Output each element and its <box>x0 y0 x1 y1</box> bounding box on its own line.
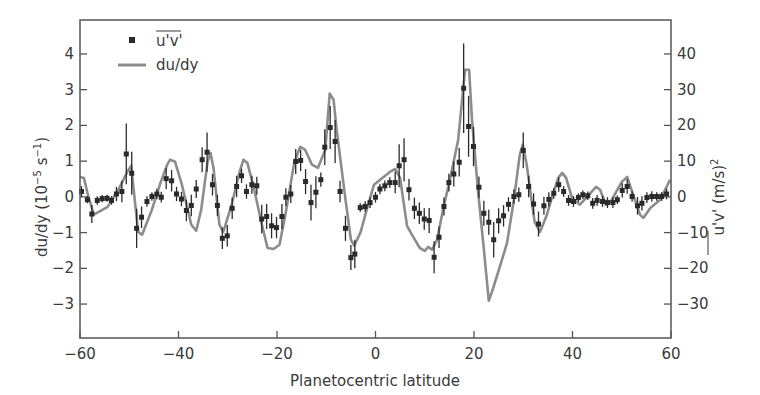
data-point <box>244 189 249 194</box>
data-point <box>210 182 215 187</box>
data-point <box>561 189 566 194</box>
x-tick-label: 20 <box>464 345 483 363</box>
data-point <box>393 180 398 185</box>
data-point <box>254 183 259 188</box>
du-dy-line <box>80 70 670 301</box>
data-point <box>124 151 129 156</box>
data-point <box>402 157 407 162</box>
data-point <box>129 171 134 176</box>
data-point <box>590 201 595 206</box>
data-point <box>546 197 551 202</box>
data-point <box>600 199 605 204</box>
legend: u'v' du/dy <box>118 31 199 74</box>
data-point <box>352 252 357 257</box>
data-point <box>149 194 154 199</box>
data-point <box>169 178 174 183</box>
data-point <box>144 199 149 204</box>
data-point <box>114 192 119 197</box>
data-point <box>293 159 298 164</box>
data-point <box>234 184 239 189</box>
data-point <box>659 194 664 199</box>
data-point <box>373 195 378 200</box>
data-point <box>215 203 220 208</box>
data-point <box>338 189 343 194</box>
data-point <box>303 179 308 184</box>
y-tick-label-right: 0 <box>677 188 687 206</box>
y-tick-label-left: −2 <box>52 259 74 277</box>
plot-area <box>79 44 670 301</box>
data-point <box>259 217 264 222</box>
data-point <box>239 173 244 178</box>
y-tick-label-right: −20 <box>677 259 709 277</box>
x-axis-title: Planetocentric latitude <box>290 372 460 390</box>
data-point <box>476 185 481 190</box>
data-point <box>154 192 159 197</box>
y-tick-label-right: 40 <box>677 45 696 63</box>
data-point <box>576 195 581 200</box>
y-tick-label-left: 1 <box>64 152 74 170</box>
data-point <box>328 125 333 130</box>
data-point <box>615 197 620 202</box>
data-point <box>441 204 446 209</box>
legend-label-uv: u'v' <box>156 32 183 50</box>
data-point <box>109 198 114 203</box>
x-tick-label: −60 <box>64 345 96 363</box>
data-point <box>556 182 561 187</box>
data-point <box>298 158 303 163</box>
data-point <box>654 194 659 199</box>
data-point <box>406 187 411 192</box>
y-tick-label-left: 4 <box>64 45 74 63</box>
y-axis-title-right-main: u'v' (m/s) <box>710 165 728 236</box>
data-point <box>551 191 556 196</box>
data-point <box>220 236 225 241</box>
legend-marker-square <box>129 37 135 43</box>
x-tick-label: 60 <box>661 345 680 363</box>
data-point <box>119 189 124 194</box>
data-point <box>269 223 274 228</box>
y-tick-label-right: −10 <box>677 224 709 242</box>
data-point <box>580 192 585 197</box>
data-point <box>174 192 179 197</box>
data-point <box>471 144 476 149</box>
y-tick-label-left: −3 <box>52 295 74 313</box>
data-point <box>85 197 90 202</box>
data-point <box>516 192 521 197</box>
data-point <box>377 187 382 192</box>
data-point <box>274 225 279 230</box>
data-point <box>189 203 194 208</box>
svg-text:du/dy (10−5 s−1): du/dy (10−5 s−1) <box>32 137 51 257</box>
x-tick-label: −40 <box>163 345 195 363</box>
legend-label-dudy: du/dy <box>156 56 199 74</box>
data-point <box>451 171 456 176</box>
data-point <box>264 214 269 219</box>
data-point <box>382 183 387 188</box>
data-point <box>279 214 284 219</box>
data-point <box>322 145 327 150</box>
y-axis-title-right: u'v' (m/s)2 <box>708 159 728 255</box>
data-point <box>437 235 442 240</box>
data-point <box>358 205 363 210</box>
data-point <box>610 200 615 205</box>
y-tick-label-left: 0 <box>64 188 74 206</box>
data-point <box>134 226 139 231</box>
data-point <box>368 200 373 205</box>
data-point <box>585 193 590 198</box>
data-point <box>644 195 649 200</box>
data-point <box>283 195 288 200</box>
data-point <box>625 184 630 189</box>
data-point <box>363 204 368 209</box>
data-point <box>308 200 313 205</box>
data-point <box>506 202 511 207</box>
data-point <box>95 198 100 203</box>
data-point <box>461 86 466 91</box>
data-point <box>566 198 571 203</box>
data-point <box>481 211 486 216</box>
data-point <box>100 196 105 201</box>
data-point <box>422 217 427 222</box>
data-point <box>333 139 338 144</box>
data-point <box>288 192 293 197</box>
data-point <box>417 211 422 216</box>
y-axis-title-left: du/dy (10−5 s−1) <box>32 137 51 257</box>
y-tick-label-right: 20 <box>677 116 696 134</box>
data-point <box>412 206 417 211</box>
